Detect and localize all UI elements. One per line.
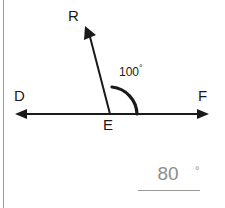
angle-measure-value: 100 [119, 65, 139, 79]
angle-measure-label: 100° [119, 64, 143, 78]
answer-value[interactable]: 80 [136, 164, 200, 183]
point-label-f: F [198, 88, 207, 103]
answer-underline [138, 190, 200, 191]
point-label-r: R [68, 8, 79, 23]
arrowhead-f [197, 109, 209, 119]
angle-degree-symbol: ° [139, 63, 143, 73]
angle-problem-figure: D F R E 100° 80 ° [0, 0, 225, 208]
point-label-d: D [14, 88, 25, 103]
arrowhead-d [15, 109, 27, 119]
answer-degree-symbol: ° [195, 165, 199, 176]
angle-arc [112, 87, 137, 114]
ray-er [89, 33, 110, 114]
answer-field[interactable]: 80 ° [136, 160, 206, 196]
point-label-e: E [103, 117, 113, 132]
